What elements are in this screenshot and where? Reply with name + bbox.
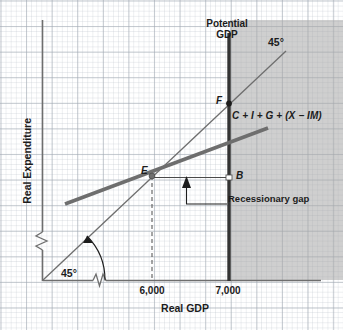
potential-gdp-label: Potential GDP [196,18,258,40]
forty-five-degree-label-origin: 45° [61,268,77,280]
x-tick-label-7000: 7,000 [206,285,250,296]
recessionary-gap-label: Recessionary gap [228,194,309,205]
x-tick-label-6000: 6,000 [130,285,174,296]
point-marker-b [226,175,232,180]
y-axis-break-mark [36,232,47,250]
plot-area [0,0,343,330]
keynesian-cross-figure: Potential GDP 45° 45° F E B C + I + G + … [0,0,343,330]
potential-gdp-label-line1: Potential [206,18,247,29]
y-axis-title: Real Expenditure [22,111,34,211]
potential-gdp-label-line2: GDP [216,29,237,40]
x-axis-title: Real GDP [140,303,230,315]
point-label-b: B [236,170,243,181]
point-marker-f [226,101,232,107]
point-label-e: E [141,165,148,176]
shaded-region-beyond-potential-gdp [230,20,343,280]
aggregate-expenditure-equation-label: C + I + G + (X − IM) [232,110,322,121]
point-label-f: F [216,95,222,106]
x-axis-break-mark [93,274,106,286]
forty-five-degree-label-top: 45° [268,37,284,49]
recessionary-gap-leader-line [187,196,228,204]
point-marker-e [149,173,155,179]
